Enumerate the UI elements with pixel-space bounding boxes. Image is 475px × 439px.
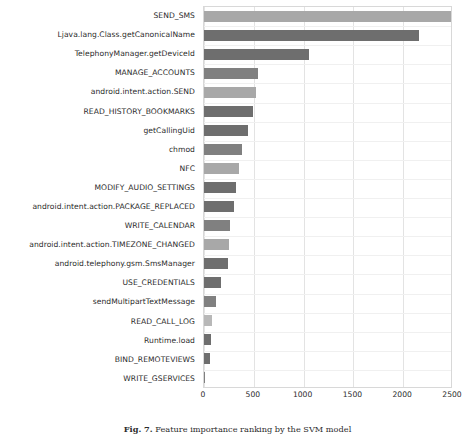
y-axis-label: SEND_SMS xyxy=(0,6,200,25)
bar-row xyxy=(204,254,451,273)
bar-row xyxy=(204,102,451,121)
bar xyxy=(204,201,234,212)
figure-number: Fig. 7. xyxy=(124,424,153,434)
y-axis-label: getCallingUid xyxy=(0,121,200,140)
bar-row xyxy=(204,311,451,330)
bar-row xyxy=(204,45,451,64)
y-axis-label: Runtime.load xyxy=(0,331,200,350)
bar xyxy=(204,296,216,307)
x-axis-tick-label: 1000 xyxy=(293,390,312,399)
x-axis-tick-label: 1500 xyxy=(343,390,362,399)
bar xyxy=(204,144,242,155)
bar xyxy=(204,30,419,41)
bar-row xyxy=(204,235,451,254)
bar xyxy=(204,68,258,79)
bar xyxy=(204,334,211,345)
bar-row xyxy=(204,273,451,292)
y-axis-label: chmod xyxy=(0,140,200,159)
bar xyxy=(204,353,210,364)
y-axis-label: NFC xyxy=(0,159,200,178)
bar-row xyxy=(204,83,451,102)
plot-area xyxy=(203,6,452,388)
bar xyxy=(204,49,309,60)
y-axis-label: MODIFY_AUDIO_SETTINGS xyxy=(0,178,200,197)
bar xyxy=(204,277,221,288)
y-axis-label: WRITE_GSERVICES xyxy=(0,369,200,388)
bar xyxy=(204,258,228,269)
y-axis-label: android.intent.action.SEND xyxy=(0,82,200,101)
y-axis-label: MANAGE_ACCOUNTS xyxy=(0,63,200,82)
y-axis-label: android.intent.action.TIMEZONE_CHANGED xyxy=(0,235,200,254)
x-axis-tick-label: 500 xyxy=(246,390,261,399)
bar-row xyxy=(204,330,451,349)
y-axis-label: android.intent.action.PACKAGE_REPLACED xyxy=(0,197,200,216)
bar xyxy=(204,87,256,98)
bar-row xyxy=(204,140,451,159)
bar-row xyxy=(204,216,451,235)
y-axis-label: Ljava.lang.Class.getCanonicalName xyxy=(0,25,200,44)
bar-row xyxy=(204,26,451,45)
bar xyxy=(204,315,212,326)
bar-row xyxy=(204,292,451,311)
y-axis-label: android.telephony.gsm.SmsManager xyxy=(0,254,200,273)
x-axis-tick-labels: 05001000150020002500 xyxy=(203,390,452,406)
bar-row xyxy=(204,368,451,387)
bar-row xyxy=(204,197,451,216)
y-axis-label: sendMultipartTextMessage xyxy=(0,292,200,311)
y-axis-label: READ_CALL_LOG xyxy=(0,312,200,331)
y-axis-category-labels: SEND_SMSLjava.lang.Class.getCanonicalNam… xyxy=(0,6,200,388)
bar xyxy=(204,163,239,174)
x-axis-tick-label: 2500 xyxy=(442,390,461,399)
bar-chart: SEND_SMSLjava.lang.Class.getCanonicalNam… xyxy=(0,6,475,406)
bar-series xyxy=(204,7,451,387)
bar xyxy=(204,220,230,231)
bar xyxy=(204,372,205,383)
y-axis-label: WRITE_CALENDAR xyxy=(0,216,200,235)
bar-row xyxy=(204,178,451,197)
figure-caption-text: Feature importance ranking by the SVM mo… xyxy=(155,424,351,434)
y-axis-label: USE_CREDENTIALS xyxy=(0,273,200,292)
bar-row xyxy=(204,159,451,178)
bar xyxy=(204,125,248,136)
figure-caption: Fig. 7. Feature importance ranking by th… xyxy=(0,424,475,434)
bar-row xyxy=(204,7,451,26)
figure-container: SEND_SMSLjava.lang.Class.getCanonicalNam… xyxy=(0,0,475,439)
bar-row xyxy=(204,349,451,368)
bar-row xyxy=(204,121,451,140)
bar xyxy=(204,11,451,22)
bar-row xyxy=(204,64,451,83)
y-axis-label: BIND_REMOTEVIEWS xyxy=(0,350,200,369)
x-axis-tick-label: 2000 xyxy=(393,390,412,399)
x-axis-tick-label: 0 xyxy=(201,390,206,399)
bar xyxy=(204,182,236,193)
bar xyxy=(204,239,229,250)
bar xyxy=(204,106,253,117)
y-axis-label: TelephonyManager.getDeviceId xyxy=(0,44,200,63)
y-axis-label: READ_HISTORY_BOOKMARKS xyxy=(0,101,200,120)
